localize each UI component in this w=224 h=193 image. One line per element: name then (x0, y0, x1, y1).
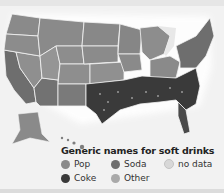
legend-item-soda: Soda (111, 159, 146, 169)
legend: Generic names for soft drinks Pop Soda n… (61, 145, 221, 187)
legend-item-no-data: no data (164, 159, 212, 169)
alaska (12, 112, 50, 144)
legend-item-coke: Coke (61, 173, 96, 183)
region-northwest-pop (6, 14, 40, 36)
bottom-strip (0, 189, 224, 193)
legend-item-pop: Pop (61, 159, 90, 169)
legend-title: Generic names for soft drinks (61, 145, 221, 156)
soda-swatch-icon (111, 160, 120, 169)
pop-swatch-icon (61, 160, 70, 169)
legend-item-other: Other (111, 173, 150, 183)
coke-swatch-icon (61, 174, 70, 183)
us-soft-drink-map (0, 6, 224, 156)
no-data-swatch-icon (164, 159, 174, 169)
other-swatch-icon (111, 174, 120, 183)
